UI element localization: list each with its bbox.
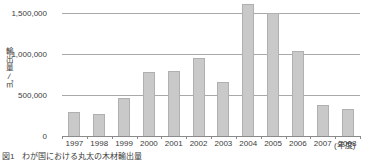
bar-2006 <box>292 51 304 136</box>
xtick-label-2003: 2003 <box>211 139 236 148</box>
x-axis-tick <box>360 136 361 139</box>
xtick-label-2004: 2004 <box>236 139 261 148</box>
bar-1999 <box>118 98 130 136</box>
bar-2001 <box>168 71 180 136</box>
bar-2007 <box>317 105 329 136</box>
bar-slot-1998 <box>87 13 112 136</box>
ytick-label-1500000: 1,500,000 <box>11 9 47 18</box>
bar-slot-2005 <box>261 13 286 136</box>
ytick-label-0: 0 <box>43 132 47 141</box>
xtick-label-2007: 2007 <box>310 139 335 148</box>
xtick-label-1998: 1998 <box>87 139 112 148</box>
bar-2000 <box>143 72 155 136</box>
ytick-label-1000000: 1,000,000 <box>11 50 47 59</box>
xtick-label-2001: 2001 <box>161 139 186 148</box>
bar-2002 <box>193 58 205 136</box>
bar-slot-2004 <box>236 13 261 136</box>
bar-slot-2003 <box>211 13 236 136</box>
xtick-label-2006: 2006 <box>285 139 310 148</box>
xtick-label-1997: 1997 <box>62 139 87 148</box>
bar-2005 <box>267 13 279 136</box>
bar-slot-2007 <box>310 13 335 136</box>
xtick-label-1999: 1999 <box>112 139 137 148</box>
x-axis-tick-labels: 1997 1998 1999 2000 2001 2002 2003 2004 … <box>62 139 360 148</box>
bar-1998 <box>93 114 105 136</box>
xtick-label-2005: 2005 <box>261 139 286 148</box>
bar-slot-2000 <box>136 13 161 136</box>
bar-slot-1997 <box>62 13 87 136</box>
bar-slot-1999 <box>112 13 137 136</box>
bar-slot-2002 <box>186 13 211 136</box>
figure-caption: 図1 わが国における丸太の木材輸出量 <box>2 150 142 160</box>
plot-area: 1,500,000 1,000,000 500,000 0 1997 1998 … <box>62 13 360 136</box>
bar-slot-2008 <box>335 13 360 136</box>
bar-2003 <box>217 82 229 136</box>
xtick-label-2002: 2002 <box>186 139 211 148</box>
bar-1997 <box>68 112 80 136</box>
bar-series <box>62 13 360 136</box>
bar-chart-figure: 輸 出 量 / ㎥ 1,500,000 1,000,000 500,000 0 <box>0 0 370 160</box>
xtick-label-2000: 2000 <box>136 139 161 148</box>
bar-slot-2001 <box>161 13 186 136</box>
x-axis-unit-label: (年度) <box>334 139 355 150</box>
ytick-label-500000: 500,000 <box>18 91 47 100</box>
bar-slot-2006 <box>285 13 310 136</box>
bar-2008 <box>342 109 354 136</box>
bar-2004 <box>242 4 254 136</box>
